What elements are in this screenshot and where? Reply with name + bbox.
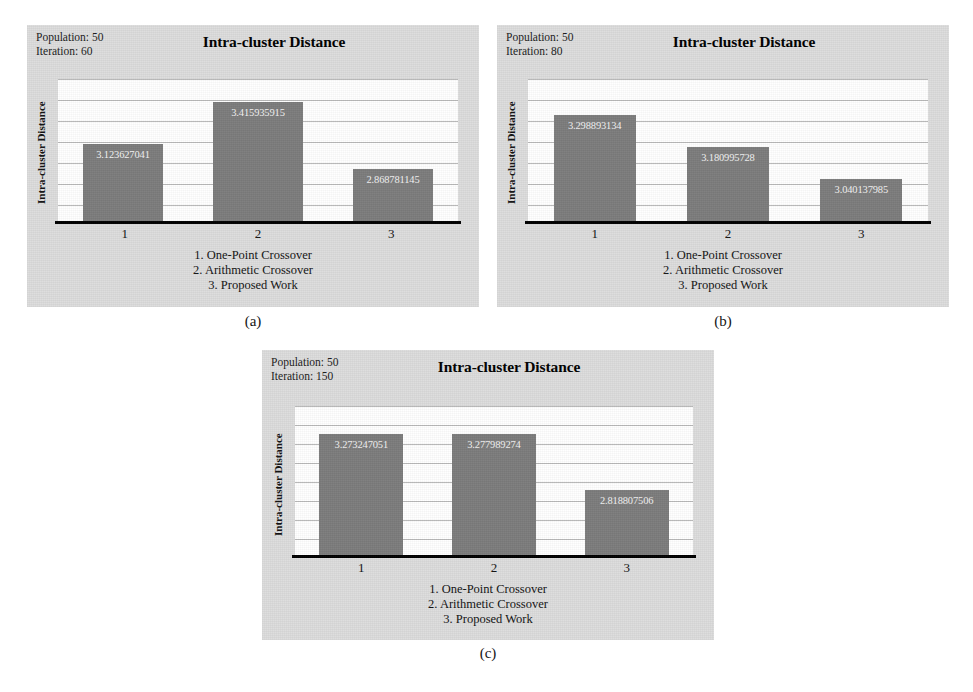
- legend-item-2: 2. Arithmetic Crossover: [497, 263, 949, 278]
- bar-3-value-label: 2.818807506: [585, 495, 669, 506]
- panel-a-background: Population: 50 Iteration: 60 Intra-clust…: [27, 25, 479, 307]
- legend-item-2: 2. Arithmetic Crossover: [27, 263, 479, 278]
- panel-b-x-axis-line: [525, 221, 931, 224]
- panel-a-x-axis-line: [55, 221, 461, 224]
- bar-2: 3.277989274: [452, 434, 536, 556]
- panel-b-bars: 3.298893134 3.180995728 3.040137985: [528, 79, 928, 222]
- x-tick-2: 2: [661, 226, 794, 242]
- x-tick-3: 3: [795, 226, 928, 242]
- legend-item-1: 1. One-Point Crossover: [497, 248, 949, 263]
- bar-3: 3.040137985: [820, 179, 902, 222]
- bar-1-value-label: 3.123627041: [83, 149, 163, 160]
- panel-b-legend: 1. One-Point Crossover 2. Arithmetic Cro…: [497, 248, 949, 293]
- panel-a-x-ticks: 1 2 3: [58, 226, 458, 242]
- panel-b-y-axis-title: Intra-cluster Distance: [505, 83, 517, 223]
- panel-c-title: Intra-cluster Distance: [262, 358, 714, 376]
- x-tick-2: 2: [191, 226, 324, 242]
- bar-3: 2.818807506: [585, 490, 669, 556]
- panel-b-title: Intra-cluster Distance: [497, 33, 949, 51]
- bar-2-value-label: 3.415935915: [213, 107, 303, 118]
- legend-item-3: 3. Proposed Work: [497, 278, 949, 293]
- panel-b-plot-area: 3.298893134 3.180995728 3.040137985: [528, 79, 928, 222]
- bar-1-value-label: 3.273247051: [319, 439, 403, 450]
- panel-c-bars: 3.273247051 3.277989274 2.818807506: [295, 406, 693, 556]
- panel-a-bars: 3.123627041 3.415935915 2.868781145: [58, 79, 458, 222]
- bar-1-value-label: 3.298893134: [554, 120, 636, 131]
- legend-item-1: 1. One-Point Crossover: [27, 248, 479, 263]
- bar-3-value-label: 2.868781145: [353, 174, 433, 185]
- panel-c-background: Population: 50 Iteration: 150 Intra-clus…: [262, 350, 714, 640]
- chart-panel-a: Population: 50 Iteration: 60 Intra-clust…: [27, 25, 479, 307]
- panel-c-legend: 1. One-Point Crossover 2. Arithmetic Cro…: [262, 582, 714, 627]
- bar-1: 3.123627041: [83, 144, 163, 222]
- legend-item-1: 1. One-Point Crossover: [262, 582, 714, 597]
- bar-3: 2.868781145: [353, 169, 433, 222]
- panel-c-sub-caption: (c): [262, 645, 714, 662]
- chart-panel-b: Population: 50 Iteration: 80 Intra-clust…: [497, 25, 949, 307]
- bar-1: 3.273247051: [319, 434, 403, 556]
- panel-a-legend: 1. One-Point Crossover 2. Arithmetic Cro…: [27, 248, 479, 293]
- x-tick-1: 1: [295, 560, 428, 576]
- x-tick-1: 1: [528, 226, 661, 242]
- bar-2: 3.415935915: [213, 102, 303, 222]
- x-tick-3: 3: [325, 226, 458, 242]
- bar-2-value-label: 3.277989274: [452, 439, 536, 450]
- panel-b-x-ticks: 1 2 3: [528, 226, 928, 242]
- bar-2: 3.180995728: [687, 147, 769, 222]
- legend-item-3: 3. Proposed Work: [27, 278, 479, 293]
- x-tick-1: 1: [58, 226, 191, 242]
- legend-item-2: 2. Arithmetic Crossover: [262, 597, 714, 612]
- panel-a-y-axis-title: Intra-cluster Distance: [35, 83, 47, 223]
- bar-2-value-label: 3.180995728: [687, 152, 769, 163]
- panel-b-sub-caption: (b): [497, 313, 949, 330]
- panel-b-background: Population: 50 Iteration: 80 Intra-clust…: [497, 25, 949, 307]
- x-tick-2: 2: [428, 560, 561, 576]
- chart-panel-c: Population: 50 Iteration: 150 Intra-clus…: [262, 350, 714, 640]
- legend-item-3: 3. Proposed Work: [262, 612, 714, 627]
- panel-c-x-axis-line: [292, 555, 696, 558]
- bar-3-value-label: 3.040137985: [820, 184, 902, 195]
- panel-a-title: Intra-cluster Distance: [27, 33, 479, 51]
- panel-c-x-ticks: 1 2 3: [295, 560, 693, 576]
- panel-c-y-axis-title: Intra-cluster Distance: [272, 412, 284, 557]
- x-tick-3: 3: [560, 560, 693, 576]
- panel-a-plot-area: 3.123627041 3.415935915 2.868781145: [58, 79, 458, 222]
- panel-c-plot-area: 3.273247051 3.277989274 2.818807506: [295, 406, 693, 556]
- figure-root: Population: 50 Iteration: 60 Intra-clust…: [0, 0, 973, 692]
- panel-a-sub-caption: (a): [27, 313, 479, 330]
- bar-1: 3.298893134: [554, 115, 636, 222]
